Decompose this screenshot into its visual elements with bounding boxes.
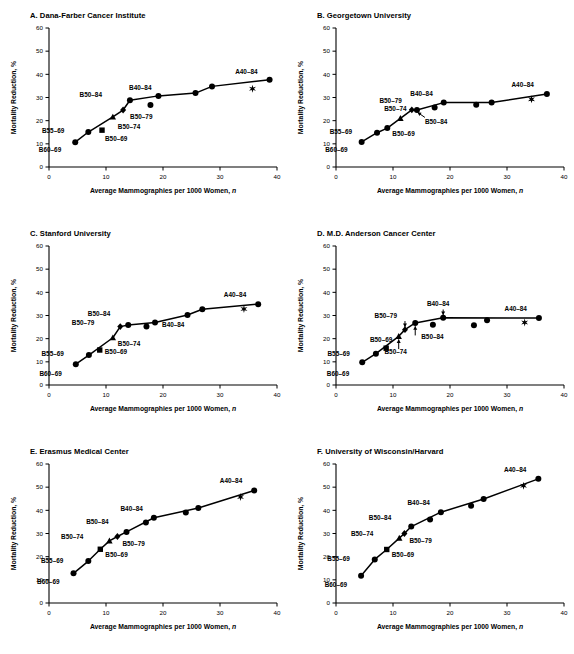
x-axis-label: Average Mammographies per 1000 Women, n	[377, 405, 523, 413]
data-point	[143, 519, 149, 525]
data-point	[185, 312, 191, 318]
data-point	[471, 322, 477, 328]
data-point-label: A40–84	[224, 291, 247, 298]
circle-marker	[535, 476, 541, 482]
y-tick-label: 50	[36, 265, 43, 272]
circle-marker	[185, 312, 191, 318]
circle-marker	[267, 77, 273, 83]
data-point	[521, 318, 528, 326]
triangle-marker	[106, 538, 112, 544]
y-axis-label: Mortality Reduction, %	[10, 497, 18, 570]
data-point	[97, 347, 102, 352]
data-point-label: B50–74	[385, 348, 408, 355]
data-point-label: B50–84	[421, 333, 444, 340]
data-point	[85, 129, 91, 135]
data-point	[544, 91, 550, 97]
data-point	[72, 139, 78, 145]
data-point	[155, 93, 161, 99]
y-tick-label: 20	[323, 117, 330, 124]
data-point-label: B60–69	[39, 146, 62, 153]
circle-marker	[489, 100, 495, 106]
circle-marker	[143, 324, 149, 330]
x-axis-label-italic-n: n	[519, 187, 523, 194]
circle-marker	[440, 315, 446, 321]
x-tick-label: 40	[561, 391, 568, 398]
circle-marker	[481, 496, 487, 502]
y-axis-label: Mortality Reduction, %	[10, 279, 18, 352]
y-tick-label: 50	[36, 47, 43, 54]
data-point	[359, 359, 365, 365]
circle-marker	[85, 558, 91, 564]
y-tick-label: 30	[36, 530, 43, 537]
data-point	[151, 515, 157, 521]
data-point	[427, 517, 433, 523]
data-point-label: B60–69	[325, 581, 348, 588]
circle-marker	[408, 524, 414, 530]
data-point	[106, 538, 112, 544]
data-point	[359, 139, 365, 145]
circle-marker	[151, 515, 157, 521]
x-tick-label: 10	[103, 609, 110, 616]
x-tick-label: 40	[274, 609, 281, 616]
x-tick-label: 20	[447, 173, 454, 180]
data-point-label: B60–69	[39, 370, 62, 377]
panel-a: A. Dana-Farber Cancer Institute010203040…	[0, 0, 287, 218]
y-tick-label: 40	[323, 507, 330, 514]
data-point-label: B40–84	[427, 300, 450, 307]
data-point	[152, 319, 158, 325]
x-axis-label-italic-n: n	[232, 623, 236, 630]
data-point-label: B50–69	[392, 551, 415, 558]
data-point	[358, 573, 364, 579]
circle-marker	[374, 130, 380, 136]
x-tick-label: 30	[217, 609, 224, 616]
circle-marker	[125, 322, 131, 328]
circle-marker	[85, 129, 91, 135]
data-point	[199, 306, 205, 312]
square-marker	[99, 127, 104, 132]
data-point-label: B50–69	[105, 348, 128, 355]
annotation-arrow	[403, 321, 407, 327]
circle-marker	[473, 102, 479, 108]
x-tick-label: 10	[103, 173, 110, 180]
circle-marker	[209, 83, 215, 89]
x-axis-label: Average Mammographies per 1000 Women, n	[90, 405, 236, 413]
data-point-label: A40–84	[220, 477, 243, 484]
y-tick-label: 50	[323, 483, 330, 490]
data-point-label: B55–69	[328, 350, 351, 357]
circle-marker	[468, 503, 474, 509]
panel-d: D. M.D. Anderson Cancer Center0102030405…	[287, 218, 574, 436]
y-tick-label: 50	[36, 483, 43, 490]
circle-marker	[544, 91, 550, 97]
x-tick-label: 40	[561, 609, 568, 616]
data-point	[536, 315, 542, 321]
y-tick-label: 0	[327, 163, 331, 170]
circle-marker	[430, 322, 436, 328]
y-tick-label: 60	[36, 460, 43, 467]
circle-marker	[155, 93, 161, 99]
data-point	[384, 125, 390, 131]
data-point-label: B50–79	[130, 113, 153, 120]
y-tick-label: 60	[323, 24, 330, 31]
circle-marker	[536, 315, 542, 321]
circle-marker	[438, 509, 444, 515]
circle-marker	[143, 519, 149, 525]
panel-title: A. Dana-Farber Cancer Institute	[30, 11, 145, 20]
data-point-label: B50–79	[409, 537, 432, 544]
circle-marker	[183, 509, 189, 515]
data-point	[267, 77, 273, 83]
data-point-label: B40–84	[120, 505, 143, 512]
circle-marker	[373, 351, 379, 357]
x-tick-label: 30	[504, 609, 511, 616]
data-point	[384, 547, 389, 552]
data-point-label: B50–84	[86, 518, 109, 525]
panel-e: E. Erasmus Medical Center010203040506001…	[0, 436, 287, 654]
data-point-label: B55–69	[42, 350, 65, 357]
circle-marker	[192, 90, 198, 96]
circle-marker	[86, 352, 92, 358]
y-tick-label: 30	[323, 94, 330, 101]
y-axis-label: Mortality Reduction, %	[297, 279, 305, 352]
y-tick-label: 60	[323, 242, 330, 249]
data-point-label: B40–84	[129, 84, 152, 91]
x-tick-label: 10	[103, 391, 110, 398]
x-tick-label: 40	[274, 173, 281, 180]
